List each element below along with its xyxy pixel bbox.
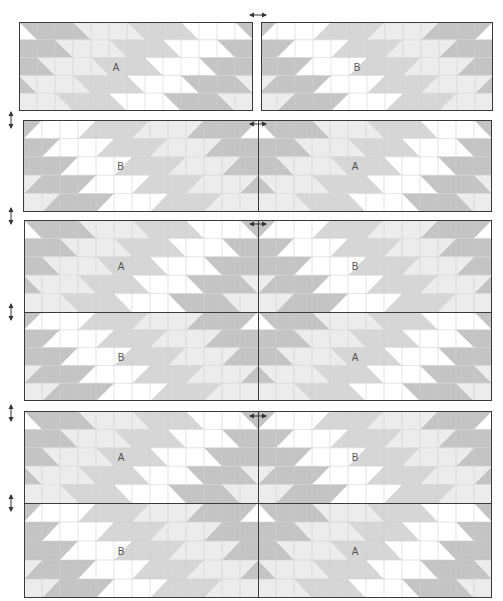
block-label: B — [118, 545, 125, 556]
press-arrow-icon — [8, 404, 14, 422]
press-arrow-icon — [8, 207, 14, 225]
block-label: B — [352, 261, 359, 272]
press-arrow-icon — [249, 405, 267, 411]
block-label: B — [354, 61, 361, 72]
press-arrow-icon — [8, 494, 14, 512]
seam-line-vertical — [258, 220, 259, 401]
press-arrow-icon — [249, 4, 267, 10]
block-a — [24, 220, 258, 312]
block-b — [261, 22, 493, 111]
block-label: A — [352, 545, 359, 556]
block-label: B — [352, 452, 359, 463]
seam-line-horizontal — [24, 503, 492, 504]
press-arrow-icon — [8, 303, 14, 321]
block-a — [258, 120, 492, 212]
block-b — [23, 120, 258, 212]
seam-line-vertical — [258, 411, 259, 598]
seam-line-horizontal — [24, 312, 492, 313]
block-label: B — [117, 161, 124, 172]
block-a — [24, 411, 258, 503]
seam-line-vertical — [258, 120, 259, 212]
block-b — [24, 503, 258, 598]
block-label: A — [352, 161, 359, 172]
block-label: A — [118, 452, 125, 463]
block-a — [258, 312, 492, 401]
block-b — [24, 312, 258, 401]
block-label: B — [118, 351, 125, 362]
block-label: A — [352, 351, 359, 362]
block-label: A — [118, 261, 125, 272]
press-arrow-icon — [249, 113, 267, 119]
press-arrow-icon — [8, 111, 14, 129]
block-label: A — [113, 61, 120, 72]
block-a — [258, 503, 492, 598]
block-b — [258, 411, 492, 503]
block-b — [258, 220, 492, 312]
block-a — [19, 22, 253, 111]
press-arrow-icon — [249, 213, 267, 219]
